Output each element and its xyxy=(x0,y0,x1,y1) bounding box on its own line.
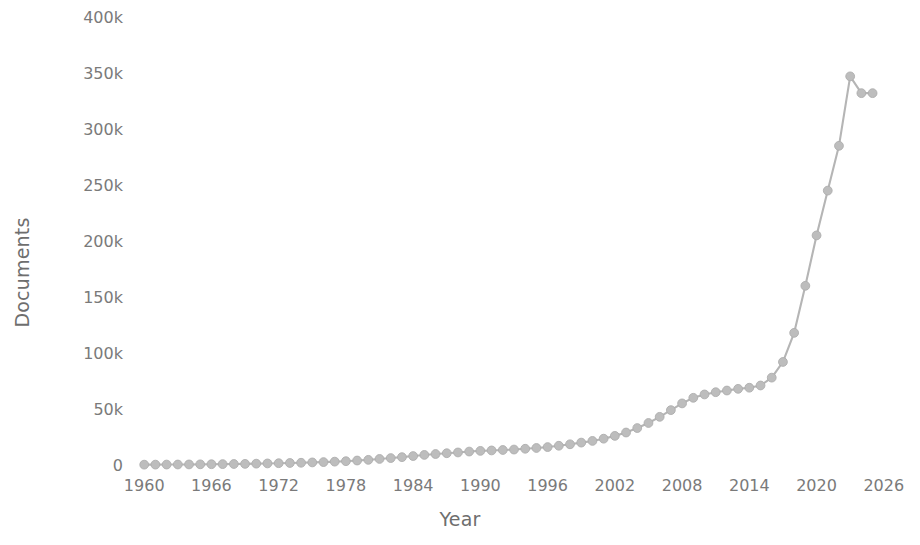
data-point xyxy=(700,390,709,399)
data-point xyxy=(599,434,608,443)
data-point xyxy=(330,457,339,466)
data-point xyxy=(207,460,216,469)
data-point xyxy=(723,386,732,395)
data-point xyxy=(342,457,351,466)
data-point xyxy=(767,373,776,382)
data-point xyxy=(196,460,205,469)
data-point xyxy=(185,460,194,469)
data-point xyxy=(745,383,754,392)
data-point xyxy=(285,459,294,468)
data-point xyxy=(543,443,552,452)
data-point xyxy=(790,328,799,337)
data-point xyxy=(734,384,743,393)
data-point xyxy=(610,431,619,440)
data-point xyxy=(353,456,362,465)
data-point xyxy=(319,458,328,467)
data-point xyxy=(801,281,810,290)
documents-series-line xyxy=(144,76,872,464)
data-point xyxy=(835,141,844,150)
data-point xyxy=(566,440,575,449)
data-point xyxy=(868,89,877,98)
data-point xyxy=(140,460,149,469)
data-point xyxy=(263,459,272,468)
data-point xyxy=(274,459,283,468)
data-point xyxy=(162,460,171,469)
plot-area xyxy=(0,0,920,545)
data-point xyxy=(308,458,317,467)
data-point xyxy=(812,231,821,240)
data-point xyxy=(398,453,407,462)
line-chart: Documents Year 050k100k150k200k250k300k3… xyxy=(0,0,920,545)
data-point xyxy=(420,451,429,460)
data-point xyxy=(476,446,485,455)
data-point xyxy=(666,406,675,415)
data-point xyxy=(454,448,463,457)
data-point xyxy=(622,428,631,437)
data-point xyxy=(487,446,496,455)
data-point xyxy=(409,452,418,461)
data-point xyxy=(297,458,306,467)
data-point xyxy=(386,454,395,463)
data-point xyxy=(532,444,541,453)
data-point xyxy=(241,459,250,468)
data-point xyxy=(173,460,182,469)
data-point xyxy=(465,447,474,456)
data-point xyxy=(577,438,586,447)
data-point xyxy=(644,419,653,428)
documents-series-markers xyxy=(140,72,877,469)
data-point xyxy=(521,444,530,453)
data-point xyxy=(375,455,384,464)
data-point xyxy=(823,186,832,195)
data-point xyxy=(711,388,720,397)
data-point xyxy=(364,455,373,464)
data-point xyxy=(442,449,451,458)
data-point xyxy=(229,460,238,469)
data-point xyxy=(218,460,227,469)
data-point xyxy=(846,72,855,81)
data-point xyxy=(633,424,642,433)
data-point xyxy=(779,358,788,367)
data-point xyxy=(588,437,597,446)
data-point xyxy=(689,393,698,402)
data-point xyxy=(252,459,261,468)
data-point xyxy=(498,446,507,455)
data-point xyxy=(857,89,866,98)
data-point xyxy=(151,460,160,469)
data-point xyxy=(655,412,664,421)
data-point xyxy=(678,399,687,408)
data-point xyxy=(756,381,765,390)
data-point xyxy=(510,445,519,454)
data-point xyxy=(431,450,440,459)
data-point xyxy=(554,441,563,450)
